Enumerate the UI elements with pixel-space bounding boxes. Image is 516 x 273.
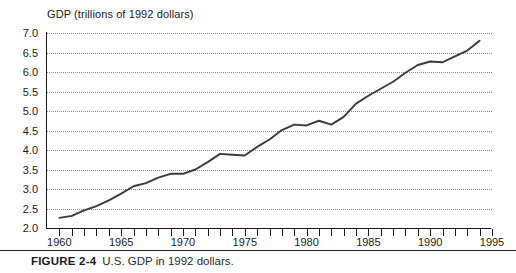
- x-tick: [381, 229, 382, 236]
- x-tick: [282, 229, 283, 236]
- x-tick: [368, 229, 369, 236]
- x-tick: [146, 229, 147, 236]
- y-tick-label: 4.0: [23, 144, 38, 156]
- figure-caption-text: U.S. GDP in 1992 dollars.: [102, 255, 233, 267]
- x-tick: [307, 229, 308, 236]
- x-tick: [220, 229, 221, 236]
- x-tick: [208, 229, 209, 236]
- x-tick: [109, 229, 110, 236]
- x-tick: [331, 229, 332, 236]
- x-tick: [245, 229, 246, 236]
- y-tick-label: 2.5: [23, 203, 38, 215]
- x-tick: [443, 229, 444, 236]
- x-tick: [467, 229, 468, 236]
- x-tick-label: 1960: [47, 236, 71, 248]
- x-tick: [492, 229, 493, 236]
- x-tick: [232, 229, 233, 236]
- x-tick: [480, 229, 481, 236]
- x-tick: [356, 229, 357, 236]
- chart-title: GDP (trillions of 1992 dollars): [47, 8, 194, 20]
- gdp-line-series: [47, 33, 492, 228]
- figure-caption-label: FIGURE 2-4: [31, 255, 96, 267]
- x-tick: [430, 229, 431, 236]
- x-tick: [134, 229, 135, 236]
- x-tick-label: 1970: [171, 236, 195, 248]
- x-tick: [344, 229, 345, 236]
- plot-area: [47, 33, 492, 228]
- x-tick: [270, 229, 271, 236]
- x-tick: [405, 229, 406, 236]
- x-tick: [84, 229, 85, 236]
- caption-divider: [0, 250, 516, 251]
- x-tick-label: 1990: [418, 236, 442, 248]
- x-tick: [418, 229, 419, 236]
- y-tick-label: 5.5: [23, 86, 38, 98]
- x-tick-label: 1995: [480, 236, 504, 248]
- x-tick: [96, 229, 97, 236]
- x-tick: [171, 229, 172, 236]
- x-tick-label: 1965: [109, 236, 133, 248]
- y-tick-label: 4.5: [23, 125, 38, 137]
- x-tick: [59, 229, 60, 236]
- x-tick: [158, 229, 159, 236]
- y-tick-label: 7.0: [23, 27, 38, 39]
- x-tick: [195, 229, 196, 236]
- x-tick: [121, 229, 122, 236]
- gdp-line-path: [59, 41, 479, 218]
- y-tick-label: 3.0: [23, 183, 38, 195]
- x-tick: [72, 229, 73, 236]
- y-tick-label: 3.5: [23, 164, 38, 176]
- x-tick: [319, 229, 320, 236]
- y-tick-label: 2.0: [23, 222, 38, 234]
- x-tick: [393, 229, 394, 236]
- x-tick-label: 1975: [233, 236, 257, 248]
- x-tick: [183, 229, 184, 236]
- x-tick-label: 1985: [356, 236, 380, 248]
- figure-container: GDP (trillions of 1992 dollars) 19601965…: [0, 0, 516, 273]
- x-tick: [455, 229, 456, 236]
- y-tick-label: 5.0: [23, 105, 38, 117]
- y-axis-line: [46, 32, 47, 229]
- x-tick-label: 1980: [294, 236, 318, 248]
- figure-caption: FIGURE 2-4U.S. GDP in 1992 dollars.: [31, 255, 234, 267]
- x-tick: [257, 229, 258, 236]
- x-tick: [294, 229, 295, 236]
- y-axis-tick-labels: 2.02.53.03.54.04.55.05.56.06.57.0: [0, 0, 46, 273]
- y-tick-label: 6.0: [23, 66, 38, 78]
- y-tick-label: 6.5: [23, 47, 38, 59]
